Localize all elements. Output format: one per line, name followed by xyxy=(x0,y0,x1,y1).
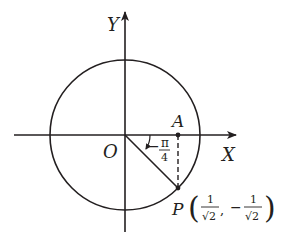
angle-denominator: 4 xyxy=(161,151,168,164)
unit-circle-diagram: Y X O A − π 4 P ( 1 √2 , − 1 √2 ) xyxy=(0,0,295,237)
p-y-numerator: 1 xyxy=(250,193,257,206)
origin-label: O xyxy=(103,141,118,162)
point-a xyxy=(176,133,181,138)
open-paren: ( xyxy=(188,190,200,225)
x-axis-label: X xyxy=(220,144,236,165)
point-p xyxy=(176,186,181,191)
y-axis-label: Y xyxy=(107,14,121,35)
angle-numerator: π xyxy=(161,136,169,150)
angle-sign: − xyxy=(148,138,160,154)
p-x-denominator: √2 xyxy=(202,210,216,223)
point-p-label: P xyxy=(171,199,184,219)
p-y-sign: − xyxy=(230,199,242,215)
p-y-denominator: √2 xyxy=(245,210,259,223)
p-comma: , xyxy=(220,202,224,217)
close-paren: ) xyxy=(264,190,276,225)
p-x-numerator: 1 xyxy=(207,193,214,206)
point-a-label: A xyxy=(170,111,184,131)
